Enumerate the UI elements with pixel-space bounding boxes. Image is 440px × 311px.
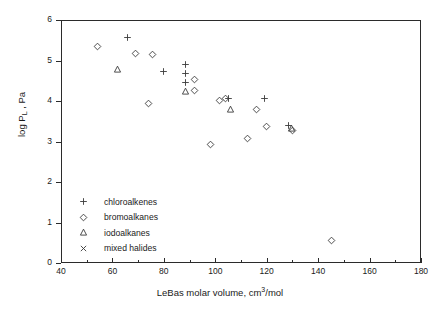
y-axis-title-post: , Pa	[16, 92, 27, 112]
y-tick-label: 3	[34, 136, 52, 146]
x-tick	[370, 258, 371, 263]
x-axis-title: LeBas molar volume, cm3/mol	[0, 286, 440, 298]
data-point	[206, 140, 215, 149]
legend-item[interactable]: mixed halides	[76, 241, 158, 257]
x-tick-label: 180	[401, 266, 440, 276]
y-tick	[56, 101, 61, 102]
data-point	[260, 94, 269, 103]
data-point	[224, 94, 233, 103]
data-point	[181, 78, 190, 87]
x-tick-label: 140	[298, 266, 338, 276]
plus-marker-icon	[76, 196, 90, 208]
legend-item[interactable]: bromoalkanes	[76, 210, 158, 226]
y-tick	[56, 142, 61, 143]
y-tick	[56, 263, 61, 264]
legend-item-label: mixed halides	[104, 243, 157, 253]
x-tick-minor	[395, 260, 396, 263]
y-tick	[56, 61, 61, 62]
x-tick	[112, 258, 113, 263]
x-tick-minor	[241, 260, 242, 263]
data-point	[148, 50, 157, 59]
data-point	[123, 33, 132, 42]
data-point	[181, 87, 190, 96]
data-point	[226, 105, 235, 114]
x-tick-label: 60	[92, 266, 132, 276]
data-point	[327, 236, 336, 245]
x-tick-label: 100	[195, 266, 235, 276]
x-tick-label: 120	[247, 266, 287, 276]
data-point	[181, 60, 190, 69]
x-tick-label: 80	[144, 266, 184, 276]
x-tick	[164, 258, 165, 263]
data-point	[262, 122, 271, 131]
x-tick	[267, 258, 268, 263]
cross-marker-icon	[76, 242, 90, 254]
data-point	[131, 49, 140, 58]
data-point	[190, 86, 199, 95]
y-tick	[56, 182, 61, 183]
data-point	[288, 126, 297, 135]
data-point	[252, 105, 261, 114]
triangle-marker-icon	[76, 227, 90, 239]
x-tick-minor	[87, 260, 88, 263]
data-point	[243, 134, 252, 143]
chart-root: 4060801001201401601800123456 LeBas molar…	[0, 0, 440, 311]
y-tick	[56, 223, 61, 224]
x-tick-label: 40	[41, 266, 81, 276]
y-tick	[56, 20, 61, 21]
y-tick-label: 1	[34, 217, 52, 227]
data-point	[284, 121, 293, 130]
y-axis-title-pre: log P	[16, 115, 27, 137]
x-tick-minor	[138, 260, 139, 263]
x-axis-title-pre: LeBas molar volume, cm	[157, 287, 262, 298]
x-tick	[318, 258, 319, 263]
x-tick-minor	[344, 260, 345, 263]
diamond-marker-icon	[76, 211, 90, 223]
legend-item[interactable]: chloroalkenes	[76, 194, 158, 210]
legend-item-label: iodoalkanes	[104, 228, 150, 238]
x-tick	[421, 258, 422, 263]
x-tick	[61, 258, 62, 263]
data-point	[93, 42, 102, 51]
y-tick-label: 4	[34, 95, 52, 105]
y-tick-label: 6	[34, 14, 52, 24]
data-point	[221, 94, 230, 103]
legend-item-label: bromoalkanes	[104, 212, 158, 222]
data-point	[113, 65, 122, 74]
x-tick	[215, 258, 216, 263]
x-tick-minor	[190, 260, 191, 263]
data-point	[144, 99, 153, 108]
x-tick-minor	[292, 260, 293, 263]
y-axis-title: log PL , Pa	[16, 44, 29, 184]
data-point	[159, 67, 168, 76]
data-point	[287, 124, 296, 133]
y-tick-label: 5	[34, 55, 52, 65]
legend-item-label: chloroalkenes	[104, 197, 157, 207]
legend-item[interactable]: iodoalkanes	[76, 225, 158, 241]
y-axis-title-sub: L	[21, 111, 28, 115]
data-point	[215, 96, 224, 105]
chart-legend: chloroalkenesbromoalkanesiodoalkanesmixe…	[76, 194, 158, 256]
y-tick-label: 0	[34, 257, 52, 267]
data-point	[190, 75, 199, 84]
data-point	[181, 69, 190, 78]
x-axis-title-post: /mol	[265, 287, 283, 298]
x-tick-label: 160	[350, 266, 390, 276]
y-tick-label: 2	[34, 176, 52, 186]
